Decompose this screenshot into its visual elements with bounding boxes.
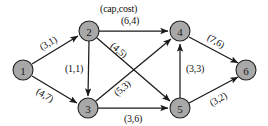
node-3-label: 3: [85, 103, 91, 115]
edge-label-5-4: (3,3): [186, 63, 204, 74]
node-1-label: 1: [20, 65, 26, 77]
edge-label-2-3: (1,1): [65, 63, 83, 74]
node-6[interactable]: 6: [236, 60, 256, 80]
node-6-label: 6: [243, 65, 249, 77]
legend-caption: (cap,cost): [100, 3, 137, 14]
node-2[interactable]: 2: [79, 21, 99, 41]
node-5-label: 5: [177, 103, 183, 115]
node-2-label: 2: [86, 26, 92, 38]
node-4-label: 4: [177, 26, 183, 38]
edge-label-3-5: (3,6): [124, 113, 142, 124]
node-5[interactable]: 5: [170, 98, 190, 118]
node-4[interactable]: 4: [170, 21, 190, 41]
node-3[interactable]: 3: [78, 98, 98, 118]
node-1[interactable]: 1: [13, 60, 33, 80]
edge-2-3: [88, 41, 89, 96]
edge-label-2-4: (6,4): [121, 15, 139, 26]
network-diagram: 1 2 3 4 5 6 (cap,cost) (: [0, 0, 268, 126]
